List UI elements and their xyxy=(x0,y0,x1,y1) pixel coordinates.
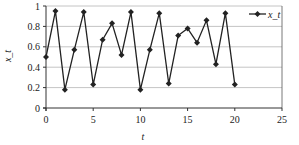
legend-label: x_t xyxy=(267,9,280,20)
data-point-marker-icon xyxy=(203,17,209,23)
y-tick-label: 0.8 xyxy=(28,21,41,32)
y-tick-label: 1 xyxy=(35,1,40,12)
data-point-marker-icon xyxy=(90,82,96,88)
y-tick-label: 0.4 xyxy=(28,62,41,73)
x-tick-label: 15 xyxy=(183,114,193,125)
data-point-marker-icon xyxy=(222,10,228,16)
y-tick-label: 0 xyxy=(35,103,40,114)
x-axis-label: t xyxy=(142,131,145,142)
legend: x_t xyxy=(249,9,280,20)
data-point-marker-icon xyxy=(128,9,134,15)
data-point-marker-icon xyxy=(43,54,49,60)
x-tick-label: 0 xyxy=(44,114,49,125)
x-tick-label: 5 xyxy=(91,114,96,125)
data-point-marker-icon xyxy=(213,61,219,67)
x-tick-label: 25 xyxy=(277,114,287,125)
data-point-marker-icon xyxy=(81,9,87,15)
data-point-marker-icon xyxy=(147,47,153,53)
data-point-marker-icon xyxy=(166,81,172,87)
x-tick-label: 20 xyxy=(230,114,240,125)
series-x_t xyxy=(43,8,238,93)
data-point-marker-icon xyxy=(100,37,106,43)
y-tick-label: 0.2 xyxy=(28,82,41,93)
legend-marker-icon xyxy=(255,11,261,17)
x-tick-label: 10 xyxy=(135,114,145,125)
y-tick-label: 0.6 xyxy=(28,41,41,52)
data-point-marker-icon xyxy=(232,82,238,88)
data-point-marker-icon xyxy=(71,47,77,53)
axes xyxy=(43,6,282,111)
data-point-marker-icon xyxy=(119,52,125,58)
data-point-marker-icon xyxy=(109,20,115,26)
line-chart: 00.20.40.60.810510152025 x_t t x_t xyxy=(0,0,299,145)
y-axis-label: x_t xyxy=(2,50,13,63)
data-point-marker-icon xyxy=(52,8,58,14)
data-point-marker-icon xyxy=(156,10,162,16)
